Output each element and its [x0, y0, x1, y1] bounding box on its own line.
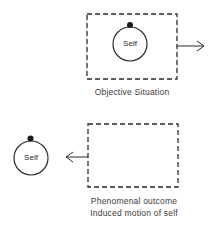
head-dot-icon: [28, 136, 34, 142]
arrow-left-icon: [66, 152, 88, 162]
caption-objective-situation: Objective Situation: [80, 86, 184, 98]
diagram-canvas: [0, 0, 217, 226]
caption-induced-motion: Induced motion of self: [78, 207, 190, 219]
head-dot-icon: [127, 22, 133, 28]
self-label-objective: Self: [115, 39, 145, 49]
objective-panel: [87, 14, 204, 79]
self-label-phenomenal: Self: [16, 153, 46, 163]
induced-motion-diagram: Self Self Objective Situation Phenomenal…: [0, 0, 217, 226]
surrounding-frame-dashed: [88, 124, 178, 187]
arrow-right-icon: [177, 41, 204, 51]
caption-phenomenal-outcome: Phenomenal outcome: [78, 195, 190, 207]
